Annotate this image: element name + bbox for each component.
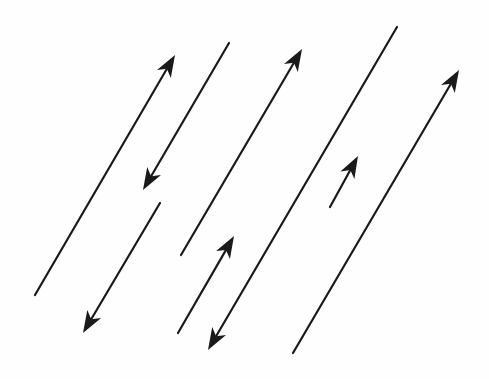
arrowhead-icon — [441, 70, 459, 93]
arrow-shaft — [216, 27, 397, 336]
arrow-3 — [83, 203, 160, 333]
arrowhead-icon — [340, 156, 358, 179]
diagram-canvas — [0, 0, 489, 379]
arrow-shaft — [293, 84, 451, 353]
arrow-shaft — [330, 170, 350, 207]
arrow-shaft — [181, 63, 294, 255]
arrowhead-icon — [143, 167, 161, 190]
arrowhead-icon — [157, 55, 175, 78]
arrow-shaft — [151, 43, 229, 176]
arrowhead-icon — [216, 236, 234, 259]
arrow-8 — [293, 70, 459, 353]
arrow-6 — [208, 27, 397, 350]
arrow-1 — [35, 55, 175, 295]
arrowhead-icon — [208, 327, 226, 350]
arrow-4 — [181, 49, 302, 255]
parallel-arrows-diagram — [0, 0, 489, 379]
arrow-shaft — [91, 203, 160, 319]
arrow-shaft — [178, 250, 226, 333]
arrow-2 — [143, 43, 229, 190]
arrowhead-icon — [284, 49, 302, 72]
arrowhead-icon — [83, 310, 101, 333]
arrow-7 — [330, 156, 358, 207]
